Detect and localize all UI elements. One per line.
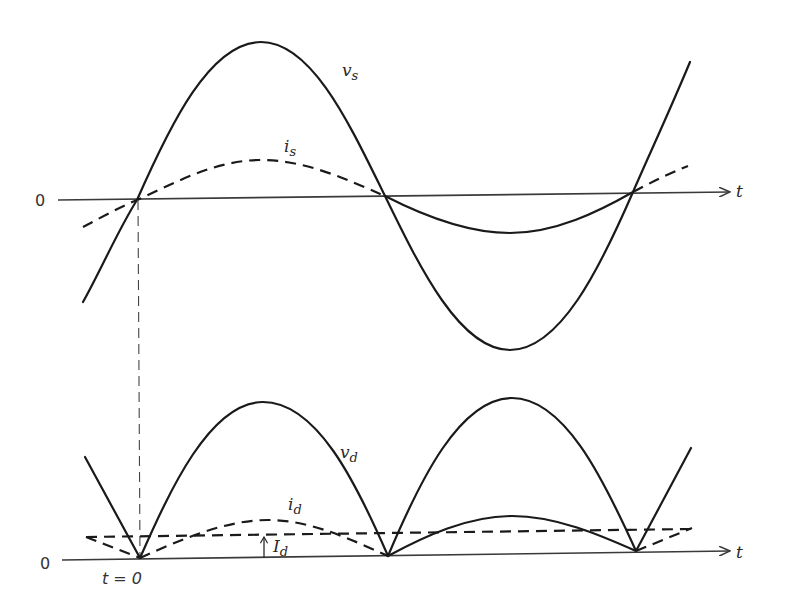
rectifier-waveform-diagram: 0 t vs is 0 t t = 0 vd id Id xyxy=(0,0,790,610)
i-d-curve-start xyxy=(86,537,140,558)
i-d-curve-second-arch xyxy=(388,516,636,556)
t-zero-label: t = 0 xyxy=(102,569,142,588)
i-d-label: id xyxy=(288,494,302,517)
bottom-plot: 0 t t = 0 vd id Id xyxy=(40,398,743,588)
I-d-label: Id xyxy=(272,536,288,559)
top-plot: 0 t vs is xyxy=(35,42,743,350)
bottom-axis-t-label: t xyxy=(736,542,743,562)
i-d-curve-tail xyxy=(636,528,692,551)
v-d-label: vd xyxy=(340,442,358,465)
t-zero-guide-line xyxy=(138,200,140,558)
i-s-curve-negative xyxy=(385,192,633,233)
i-s-curve-tail xyxy=(633,166,688,192)
bottom-axis-zero-label: 0 xyxy=(40,554,50,573)
v-d-curve xyxy=(85,398,691,558)
top-axis-t-label: t xyxy=(736,181,743,201)
i-s-label: is xyxy=(284,136,296,159)
v-s-label: vs xyxy=(342,60,359,83)
top-axis-zero-label: 0 xyxy=(35,191,45,210)
